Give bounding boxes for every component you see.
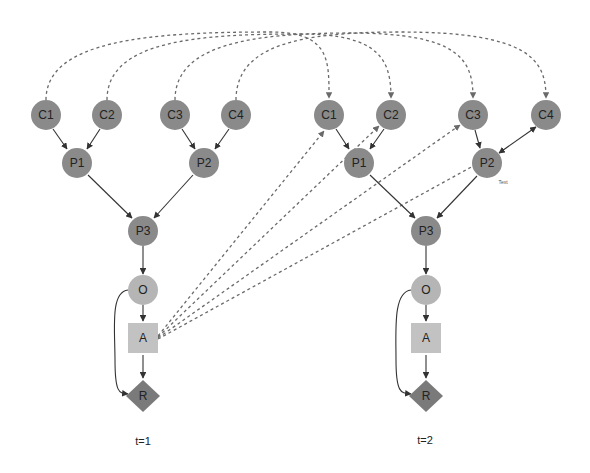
node-c2[interactable]: C2 <box>92 100 122 130</box>
node-c1[interactable]: C1 <box>31 100 61 130</box>
svg-text:P1: P1 <box>352 156 367 170</box>
svg-text:A: A <box>139 331 147 345</box>
svg-text:C3: C3 <box>167 108 183 122</box>
node-r[interactable]: R <box>126 380 160 412</box>
node-p3[interactable]: P3 <box>411 216 441 246</box>
influence-diagram: C1 C2 C3 C4 P1 P2 P3 O A R t=1 C1 C2 C3 … <box>0 0 590 473</box>
node-a[interactable]: A <box>411 323 441 353</box>
time-label-t2: t=2 <box>417 434 433 446</box>
slice-t1: C1 C2 C3 C4 P1 P2 P3 O A R t=1 <box>31 100 251 447</box>
node-c1[interactable]: C1 <box>314 100 344 130</box>
node-c2[interactable]: C2 <box>376 100 406 130</box>
temporal-edge-c2 <box>107 34 391 100</box>
svg-text:P2: P2 <box>480 156 495 170</box>
temporal-edge-c1 <box>46 32 329 100</box>
temporal-edge-a-c4 <box>158 165 475 339</box>
temporal-edge-a-c1 <box>158 131 324 336</box>
svg-text:R: R <box>422 389 431 403</box>
node-r[interactable]: R <box>409 380 443 412</box>
svg-text:P3: P3 <box>419 224 434 238</box>
node-c4[interactable]: C4 <box>221 100 251 130</box>
slice-t2: C1 C2 C3 C4 P1 P2 Text P3 O A R t=2 <box>314 100 561 446</box>
svg-text:P1: P1 <box>70 156 85 170</box>
temporal-edge-c3 <box>175 33 473 100</box>
node-c3[interactable]: C3 <box>160 100 190 130</box>
node-c4[interactable]: C4 <box>531 100 561 130</box>
svg-text:C2: C2 <box>383 108 399 122</box>
node-c3[interactable]: C3 <box>458 100 488 130</box>
node-o[interactable]: O <box>128 275 158 305</box>
svg-text:C1: C1 <box>38 108 54 122</box>
annotation-text: Text <box>498 179 508 185</box>
node-p2[interactable]: P2 <box>189 148 219 178</box>
node-p2[interactable]: P2 <box>472 148 502 178</box>
node-p3[interactable]: P3 <box>128 216 158 246</box>
svg-text:O: O <box>421 283 430 297</box>
svg-text:R: R <box>139 389 148 403</box>
node-a[interactable]: A <box>128 323 158 353</box>
node-p1[interactable]: P1 <box>344 148 374 178</box>
svg-text:P3: P3 <box>136 224 151 238</box>
svg-text:C2: C2 <box>99 108 115 122</box>
svg-text:C3: C3 <box>465 108 481 122</box>
node-o[interactable]: O <box>411 275 441 305</box>
svg-text:P2: P2 <box>197 156 212 170</box>
svg-text:A: A <box>422 331 430 345</box>
svg-text:C4: C4 <box>538 108 554 122</box>
svg-text:C1: C1 <box>321 108 337 122</box>
time-label-t1: t=1 <box>135 435 151 447</box>
svg-text:O: O <box>138 283 147 297</box>
node-p1[interactable]: P1 <box>62 148 92 178</box>
svg-text:C4: C4 <box>228 108 244 122</box>
